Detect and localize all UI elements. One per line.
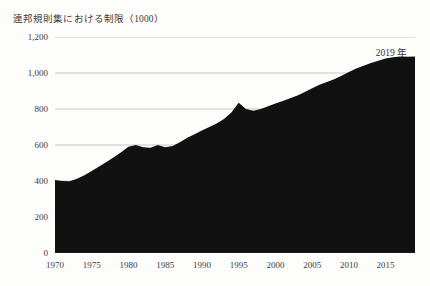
x-axis-tick-label: 1990	[182, 260, 222, 270]
x-axis-tick-label: 1985	[145, 260, 185, 270]
area-chart-svg	[55, 37, 415, 253]
x-axis-tick-label: 1995	[219, 260, 259, 270]
plot-area	[55, 37, 415, 253]
y-axis-tick-label: 0	[4, 248, 48, 258]
area-series-path	[55, 56, 415, 253]
y-axis-tick-label: 800	[4, 104, 48, 114]
x-axis-tick-label: 1975	[72, 260, 112, 270]
page-title: 連邦規則集における制限（1000）	[13, 11, 164, 25]
y-axis-tick-label: 600	[4, 140, 48, 150]
x-axis-tick-label: 2000	[255, 260, 295, 270]
chart-page: 連邦規則集における制限（1000） 2019 年 02004006008001,…	[0, 0, 430, 286]
x-axis-tick-label: 2010	[329, 260, 369, 270]
x-axis-tick-label: 2015	[366, 260, 406, 270]
y-axis-tick-label: 1,200	[4, 32, 48, 42]
y-axis-tick-label: 1,000	[4, 68, 48, 78]
y-axis-tick-label: 400	[4, 176, 48, 186]
y-axis-tick-label: 200	[4, 212, 48, 222]
x-axis-tick-label: 1980	[108, 260, 148, 270]
x-axis-tick-label: 1970	[35, 260, 75, 270]
x-axis-tick-label: 2005	[292, 260, 332, 270]
